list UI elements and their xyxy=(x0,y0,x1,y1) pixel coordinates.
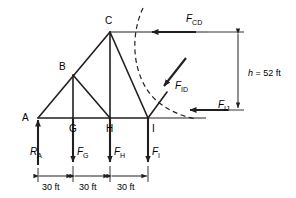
node-label-I: I xyxy=(152,123,155,134)
node-label-C: C xyxy=(105,15,112,26)
section-cut-curve xyxy=(135,8,196,119)
span-label-2: 30 ft xyxy=(79,182,97,192)
truss-diagram: A B C G H I FCD FID FIJ RA FG xyxy=(0,0,296,198)
node-label-H: H xyxy=(106,123,113,134)
force-label-R-A: RA xyxy=(30,146,42,159)
force-label-F-H: FH xyxy=(114,146,125,159)
span-label-3: 30 ft xyxy=(117,182,135,192)
dimension-labels: h = 52 ft 30 ft 30 ft 30 ft xyxy=(42,68,281,192)
span-label-1: 30 ft xyxy=(42,182,60,192)
force-label-F-G: FG xyxy=(77,146,89,159)
node-label-G: G xyxy=(69,123,77,134)
force-arrows xyxy=(38,32,228,165)
force-label-F-ID: FID xyxy=(175,80,188,93)
member-diagonal-B-H xyxy=(73,75,110,118)
member-diagonal-C-I xyxy=(110,32,148,118)
force-label-F-CD: FCD xyxy=(186,13,202,26)
member-stub-I-D xyxy=(148,92,167,118)
truss-members xyxy=(38,32,167,118)
force-labels: FCD FID FIJ RA FG FH FI xyxy=(30,13,230,159)
span-dimensions xyxy=(38,166,148,182)
height-dimension xyxy=(206,32,244,110)
force-label-F-I: FI xyxy=(152,146,160,159)
node-label-B: B xyxy=(59,61,66,72)
force-label-F-IJ: FIJ xyxy=(218,99,230,112)
node-label-A: A xyxy=(22,112,29,123)
node-labels: A B C G H I xyxy=(22,15,155,134)
height-dimension-label: h = 52 ft xyxy=(248,68,281,78)
cut-member-extensions xyxy=(110,32,208,118)
